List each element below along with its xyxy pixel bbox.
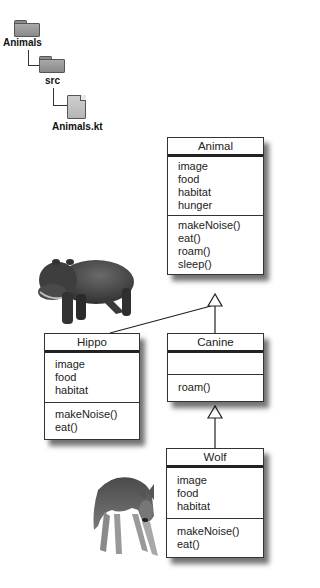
attributes-section (168, 353, 263, 374)
attributes-section: image food habitat hunger (168, 157, 263, 215)
class-name: Wolf (167, 449, 263, 468)
class-name: Hippo (45, 334, 139, 353)
attribute: food (177, 487, 263, 500)
inheritance-arrow-icon (208, 406, 222, 418)
method: makeNoise() (177, 525, 263, 538)
class-canine[interactable]: Canine roam() (167, 333, 264, 402)
class-name: Animal (168, 138, 263, 157)
attributes-section: image food habitat (167, 468, 263, 518)
method: makeNoise() (178, 219, 263, 232)
methods-section: roam() (168, 374, 263, 401)
method: eat() (178, 232, 263, 245)
method: roam() (178, 381, 263, 394)
attributes-section: image food habitat (45, 353, 139, 402)
attribute: habitat (55, 384, 139, 397)
method: roam() (178, 245, 263, 258)
methods-section: makeNoise() eat() (167, 518, 263, 557)
methods-section: makeNoise() eat() roam() sleep() (168, 215, 263, 274)
attribute: food (178, 173, 263, 186)
attribute: food (55, 371, 139, 384)
attribute: habitat (178, 186, 263, 199)
inheritance-arrow-icon (208, 294, 222, 306)
class-animal[interactable]: Animal image food habitat hunger makeNoi… (167, 137, 264, 275)
method: eat() (177, 538, 263, 551)
hippo-image (36, 252, 136, 328)
attribute: image (55, 358, 139, 371)
method: eat() (55, 421, 139, 434)
class-hippo[interactable]: Hippo image food habitat makeNoise() eat… (44, 333, 140, 440)
attribute: image (177, 474, 263, 487)
method: makeNoise() (55, 408, 139, 421)
method: sleep() (178, 258, 263, 271)
attribute: hunger (178, 199, 263, 212)
class-wolf[interactable]: Wolf image food habitat makeNoise() eat(… (166, 448, 264, 558)
attribute: habitat (177, 500, 263, 513)
class-name: Canine (168, 334, 263, 353)
wolf-image (92, 470, 160, 560)
attribute: image (178, 160, 263, 173)
methods-section: makeNoise() eat() (45, 402, 139, 439)
